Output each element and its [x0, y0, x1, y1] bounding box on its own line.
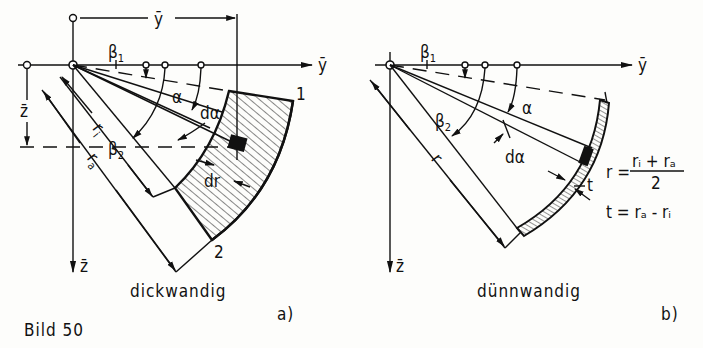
zbar-dim-label: z̄ — [20, 101, 28, 121]
ra-arrow-top — [44, 92, 80, 143]
beta1-node-icon — [462, 62, 468, 68]
figure-caption: Bild 50 — [24, 320, 84, 340]
ray-edge-2 — [390, 65, 520, 232]
alpha-arc — [508, 68, 517, 112]
figure-canvas: ȳ z̄ ȳ z̄ β1 α dα — [0, 0, 703, 348]
d-alpha-tick — [503, 120, 510, 138]
alpha-label: α — [172, 87, 182, 107]
formula-r-lhs: r = — [606, 162, 630, 182]
d-alpha-arrow — [178, 123, 205, 140]
axis-node-icon — [24, 62, 31, 69]
formula-r-numerator: rᵢ + rₐ — [632, 151, 676, 171]
thin-wall-section — [517, 100, 609, 236]
y-axis-label: ȳ — [638, 55, 647, 75]
point-2-label: 2 — [214, 242, 224, 262]
ray-d-alpha — [73, 65, 210, 128]
r-arrow-bottom — [450, 180, 504, 246]
r-ext — [505, 232, 521, 248]
y-axis-label: ȳ — [318, 55, 327, 75]
beta2-node-icon — [482, 62, 488, 68]
ra-arrow-bottom — [116, 190, 175, 270]
top-node-icon — [70, 15, 77, 22]
panel-a-tag: a) — [277, 304, 294, 324]
panel-b-title: dünnwandig — [477, 281, 581, 301]
beta2-node-icon — [162, 62, 168, 68]
beta2-arc — [133, 68, 165, 138]
beta1-label: β1 — [420, 42, 436, 65]
z-axis-label: z̄ — [396, 256, 404, 276]
ray-edge-1 — [73, 65, 229, 91]
t-label: t — [587, 175, 593, 195]
ra-ext — [176, 240, 212, 272]
t-arrow-in — [548, 171, 565, 180]
ra-label: ra — [81, 148, 107, 172]
dr-label: dr — [204, 171, 221, 191]
ri-ext — [153, 188, 175, 197]
d-alpha-label: dα — [200, 103, 220, 123]
point-1-label: 1 — [296, 84, 306, 104]
formula-r-denominator: 2 — [651, 173, 661, 193]
ray-alpha-2 — [390, 65, 586, 165]
z-axis-label: z̄ — [80, 256, 88, 276]
panel-b: ȳ z̄ β1 α dα β2 t r — [370, 42, 684, 324]
alpha-node-icon — [514, 62, 520, 68]
ri-arrow-bottom — [128, 165, 152, 196]
formula-t: t = rₐ - rᵢ — [606, 202, 671, 222]
beta2-label: β2 — [435, 111, 451, 134]
alpha-label: α — [522, 98, 532, 118]
alpha-node-icon — [198, 62, 204, 68]
d-alpha-arrow — [494, 134, 503, 143]
ray-edge-1 — [390, 65, 605, 100]
ybar-dim-label: ȳ — [154, 9, 163, 29]
beta1-node-icon — [143, 62, 149, 68]
ray-alpha-1 — [390, 65, 592, 148]
panel-b-tag: b) — [661, 304, 679, 324]
panel-a-title: dickwandig — [130, 281, 226, 301]
d-alpha-label: dα — [505, 147, 525, 167]
panel-a: ȳ z̄ ȳ z̄ β1 α dα — [18, 9, 327, 324]
r-arrow-top — [372, 82, 410, 130]
